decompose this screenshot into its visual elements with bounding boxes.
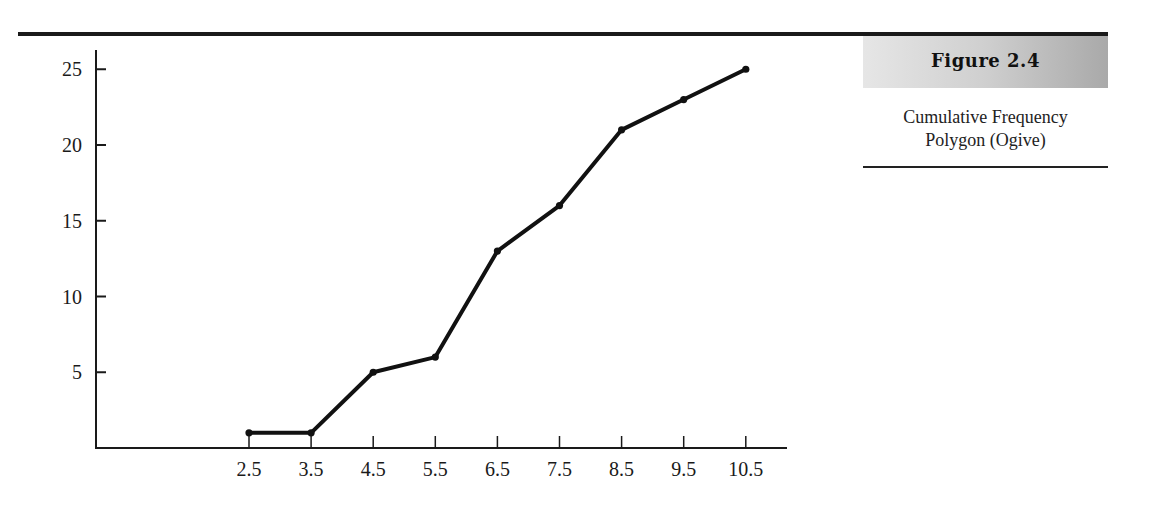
data-point <box>308 429 315 436</box>
y-tick-label: 10 <box>62 286 82 308</box>
y-tick-label: 5 <box>72 361 82 383</box>
data-point <box>618 126 625 133</box>
x-tick-label: 5.5 <box>423 458 448 480</box>
x-tick-label: 7.5 <box>547 458 572 480</box>
y-tick-label: 20 <box>62 134 82 156</box>
x-tick-label: 4.5 <box>361 458 386 480</box>
axes <box>95 50 787 449</box>
x-tick-label: 2.5 <box>237 458 262 480</box>
x-ticks: 2.53.54.55.56.57.58.59.510.5 <box>237 436 764 480</box>
data-point <box>556 202 563 209</box>
ogive-chart: 510152025 2.53.54.55.56.57.58.59.510.5 <box>0 0 1152 507</box>
x-tick-label: 8.5 <box>609 458 634 480</box>
data-point <box>494 247 501 254</box>
data-point <box>245 429 252 436</box>
x-tick-label: 10.5 <box>728 458 763 480</box>
y-ticks: 510152025 <box>62 58 106 383</box>
y-tick-label: 25 <box>62 58 82 80</box>
x-tick-label: 3.5 <box>299 458 324 480</box>
x-tick-label: 6.5 <box>485 458 510 480</box>
x-tick-label: 9.5 <box>671 458 696 480</box>
y-tick-label: 15 <box>62 210 82 232</box>
data-point <box>370 369 377 376</box>
data-point <box>432 354 439 361</box>
data-point <box>742 66 749 73</box>
data-markers <box>245 66 749 437</box>
data-point <box>680 96 687 103</box>
